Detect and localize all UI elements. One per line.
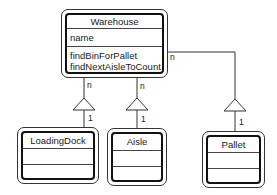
class-name: Aisle [113, 134, 161, 151]
uml-class-diagram: Warehouse name findBinForPallet findNext… [0, 0, 277, 195]
class-name: Warehouse [67, 15, 162, 29]
operations-compartment [208, 169, 259, 182]
attributes-compartment: name [67, 29, 162, 47]
operations-compartment [23, 165, 93, 178]
class-loadingdock-body: LoadingDock [21, 131, 95, 180]
multiplicity-label: 1 [88, 114, 93, 123]
class-pallet: Pallet [202, 131, 265, 188]
class-aisle-body: Aisle [111, 132, 163, 182]
class-warehouse: Warehouse name findBinForPallet findNext… [61, 9, 168, 78]
class-warehouse-body: Warehouse name findBinForPallet findNext… [65, 13, 164, 74]
association-warehouse-pallet [167, 52, 246, 131]
operations-compartment [113, 167, 161, 180]
multiplicity-label: 1 [239, 118, 244, 127]
class-pallet-body: Pallet [206, 135, 261, 184]
generalization-triangle-icon [224, 99, 246, 111]
multiplicity-label: n [87, 81, 92, 90]
multiplicity-label: n [140, 82, 145, 91]
multiplicity-label: 1 [141, 115, 146, 124]
attributes-compartment [208, 153, 259, 169]
operation: findNextAisleToCount [70, 61, 159, 72]
multiplicity-label: n [170, 53, 175, 62]
generalization-triangle-icon [73, 98, 95, 110]
class-name: LoadingDock [23, 133, 93, 149]
class-loadingdock: LoadingDock [17, 127, 99, 184]
generalization-triangle-icon [126, 98, 148, 110]
class-name: Pallet [208, 137, 259, 153]
attributes-compartment [23, 149, 93, 165]
attribute: name [70, 32, 94, 43]
operation: findBinForPallet [70, 50, 159, 61]
operations-compartment: findBinForPallet findNextAisleToCount [67, 47, 162, 72]
attributes-compartment [113, 151, 161, 167]
class-aisle: Aisle [107, 128, 167, 186]
